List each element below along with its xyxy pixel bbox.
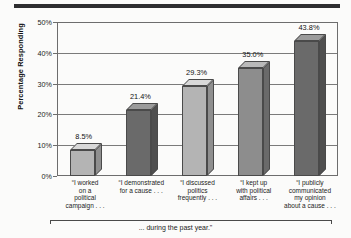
bar-value-label: 8.5% <box>75 132 92 141</box>
bar-column[interactable]: 21.4% <box>126 110 151 176</box>
category-label-line: about a cause . . . <box>282 202 338 210</box>
category-label-line: communicated <box>282 187 338 195</box>
bar-value-label: 21.4% <box>130 92 151 101</box>
bar-side-face <box>207 79 214 176</box>
y-axis-tick-label: 0% <box>3 172 57 181</box>
bar-column[interactable]: 29.3% <box>182 86 207 176</box>
bar-column[interactable]: 35.0% <box>238 68 263 176</box>
category-label-line: “I demonstrated <box>113 179 169 187</box>
x-axis-category-label: “I discussedpoliticsfrequently . . . <box>169 179 225 202</box>
category-label-line: “I kept up <box>226 179 282 187</box>
bar-side-face <box>319 34 326 176</box>
x-axis-category-label: “I publiclycommunicatedmy opinionabout a… <box>282 179 338 209</box>
category-label-line: frequently . . . <box>169 194 225 202</box>
category-label-line: for a cause . . . <box>113 187 169 195</box>
y-axis-tick-label: 40% <box>3 48 57 57</box>
category-label-line: affairs . . . <box>226 194 282 202</box>
x-axis-category-label: “I demonstratedfor a cause . . . <box>113 179 169 194</box>
y-axis-tick-mark <box>53 176 57 177</box>
y-axis-tick-label: 30% <box>3 79 57 88</box>
x-axis-category-label: “I kept upwith politicalaffairs . . . <box>226 179 282 202</box>
bar-value-label: 29.3% <box>186 68 207 77</box>
bar-front-face <box>126 110 151 176</box>
y-axis-tick-label: 50% <box>3 18 57 27</box>
category-label-line: political <box>57 194 113 202</box>
x-axis-category-labels: “I workedon apoliticalcampaign . . .“I d… <box>57 179 338 215</box>
y-axis-ticks: 0%10%20%30%40%50% <box>0 22 57 176</box>
x-axis-category-label: “I workedon apoliticalcampaign . . . <box>57 179 113 209</box>
category-label-line: “I worked <box>57 179 113 187</box>
category-label-line: with political <box>226 187 282 195</box>
bar-side-face <box>151 103 158 176</box>
bar-series: 8.5%21.4%29.3%35.0%43.8% <box>57 22 338 176</box>
bar-front-face <box>294 41 319 176</box>
top-divider-rule <box>14 4 340 8</box>
category-label-line: politics <box>169 187 225 195</box>
bar-column[interactable]: 43.8% <box>294 41 319 176</box>
bar-front-face <box>70 150 95 176</box>
category-label-line: on a <box>57 187 113 195</box>
bar-column[interactable]: 8.5% <box>70 150 95 176</box>
y-axis-tick-label: 10% <box>3 141 57 150</box>
bar-front-face <box>238 68 263 176</box>
category-label-line: campaign . . . <box>57 202 113 210</box>
bar-side-face <box>263 61 270 176</box>
category-label-line: my opinion <box>282 194 338 202</box>
bar-value-label: 43.8% <box>299 23 320 32</box>
category-label-line: “I discussed <box>169 179 225 187</box>
category-label-line: “I publicly <box>282 179 338 187</box>
bar-front-face <box>182 86 207 176</box>
y-axis-tick-label: 20% <box>3 110 57 119</box>
bar-value-label: 35.0% <box>242 50 263 59</box>
x-axis-caption: ... during the past year." <box>0 224 351 231</box>
chart-figure: Percentage Responding 0%10%20%30%40%50% … <box>0 0 351 238</box>
